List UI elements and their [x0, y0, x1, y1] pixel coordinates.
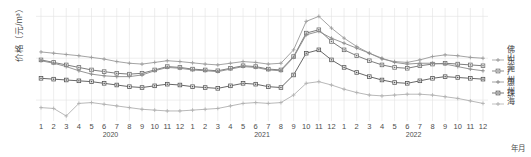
data-point-core — [230, 85, 231, 86]
data-point-core — [116, 73, 117, 74]
square-marker-icon — [492, 82, 504, 88]
x-axis-year-label: 2022 — [399, 131, 429, 138]
data-point-core — [318, 49, 319, 50]
plus-marker-icon — [492, 71, 504, 77]
legend-item-label: 珠海 — [505, 89, 513, 105]
y-axis-title: 价格（元/m³） — [12, 0, 26, 76]
plot-area — [36, 8, 488, 121]
data-point-core — [369, 76, 370, 77]
legend: 佛山东莞广州惠州珠海 — [492, 46, 531, 108]
data-point-core — [78, 67, 79, 68]
data-point-core — [91, 69, 92, 70]
data-point-core — [192, 86, 193, 87]
data-point-core — [444, 76, 445, 77]
x-axis-title: 年月 — [511, 142, 525, 153]
x-axis-year-label: 2020 — [95, 131, 125, 138]
data-point-core — [167, 83, 168, 84]
series-line — [41, 16, 483, 65]
data-point-core — [343, 49, 344, 50]
data-point-core — [66, 79, 67, 80]
series-line — [41, 82, 483, 116]
data-point-core — [53, 78, 54, 79]
chart-container: 价格（元/m³） 700.000600.000500.000 123456789… — [0, 0, 531, 157]
data-point-core — [432, 78, 433, 79]
data-point-core — [91, 81, 92, 82]
plus-marker-icon — [492, 49, 504, 55]
data-point-core — [356, 72, 357, 73]
data-point-core — [356, 55, 357, 56]
data-point-core — [381, 64, 382, 65]
data-point-core — [419, 65, 420, 66]
data-point-core — [482, 65, 483, 66]
data-point-core — [280, 87, 281, 88]
x-axis-year-labels: 202020212022 — [36, 131, 488, 143]
data-point-core — [343, 67, 344, 68]
data-point-core — [293, 74, 294, 75]
data-point-core — [129, 86, 130, 87]
data-point-core — [306, 53, 307, 54]
data-point-core — [470, 64, 471, 65]
data-point-core — [141, 87, 142, 88]
data-point-core — [204, 87, 205, 88]
data-point-core — [407, 83, 408, 84]
data-point-core — [369, 60, 370, 61]
data-point-core — [419, 80, 420, 81]
data-point-core — [331, 59, 332, 60]
data-point-core — [217, 88, 218, 89]
data-point-core — [394, 67, 395, 68]
data-point-core — [40, 78, 41, 79]
data-point-core — [116, 84, 117, 85]
data-point-core — [179, 84, 180, 85]
data-point-core — [78, 80, 79, 81]
data-point-core — [103, 71, 104, 72]
data-point-core — [470, 78, 471, 79]
chart-svg — [36, 8, 488, 121]
series-佛山 — [39, 14, 485, 66]
data-point-core — [331, 41, 332, 42]
square-marker-icon — [492, 60, 504, 66]
data-point-core — [129, 73, 130, 74]
data-point-core — [457, 63, 458, 64]
data-point-core — [154, 85, 155, 86]
legend-item-珠海[interactable]: 珠海 — [492, 90, 531, 101]
data-point-core — [242, 83, 243, 84]
x-axis-year-label: 2021 — [247, 131, 277, 138]
data-point-core — [103, 83, 104, 84]
data-point-core — [407, 68, 408, 69]
series-line — [41, 30, 483, 74]
data-point-core — [482, 78, 483, 79]
data-point-core — [268, 86, 269, 87]
data-point-core — [457, 77, 458, 78]
data-point-core — [255, 83, 256, 84]
data-point-core — [394, 82, 395, 83]
x-axis-tick-label: 12 — [476, 122, 490, 131]
data-point-core — [381, 79, 382, 80]
plus-marker-icon — [492, 93, 504, 99]
series-line — [41, 31, 483, 76]
